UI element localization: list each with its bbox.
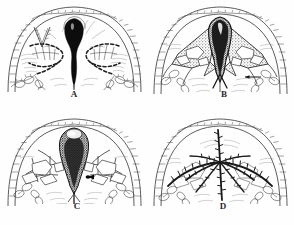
panel-d: D: [148, 114, 293, 209]
panel-c-label: C: [67, 202, 87, 211]
figure-plate: A: [0, 0, 294, 225]
panel-a-drawing: [2, 2, 147, 97]
panel-d-label: D: [213, 202, 233, 211]
panel-b-label: B: [214, 90, 234, 99]
panel-c-drawing: [2, 114, 147, 209]
panel-b: B: [148, 2, 293, 97]
panel-d-drawing: [148, 114, 293, 209]
panel-b-drawing: [148, 2, 293, 97]
panel-a: A: [2, 2, 147, 97]
panel-a-label: A: [64, 90, 84, 99]
panel-c: C: [2, 114, 147, 209]
